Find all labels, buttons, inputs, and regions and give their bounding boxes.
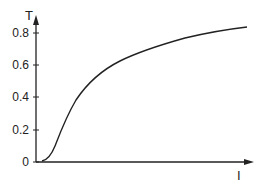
y-tick-label-0.2: 0.2 <box>12 123 29 137</box>
x-axis-arrow-icon <box>244 159 254 165</box>
y-tick-label-0.6: 0.6 <box>12 58 29 72</box>
x-axis-label: I <box>237 168 241 183</box>
y-tick-label-0.8: 0.8 <box>12 26 29 40</box>
y-axis-label: T <box>25 8 33 23</box>
y-tick-label-0: 0 <box>22 155 29 169</box>
chart: 0 0.2 0.4 0.6 0.8 T I <box>0 0 265 186</box>
y-axis-arrow-icon <box>33 15 39 25</box>
y-tick-label-0.4: 0.4 <box>12 90 29 104</box>
data-curve <box>42 27 247 161</box>
